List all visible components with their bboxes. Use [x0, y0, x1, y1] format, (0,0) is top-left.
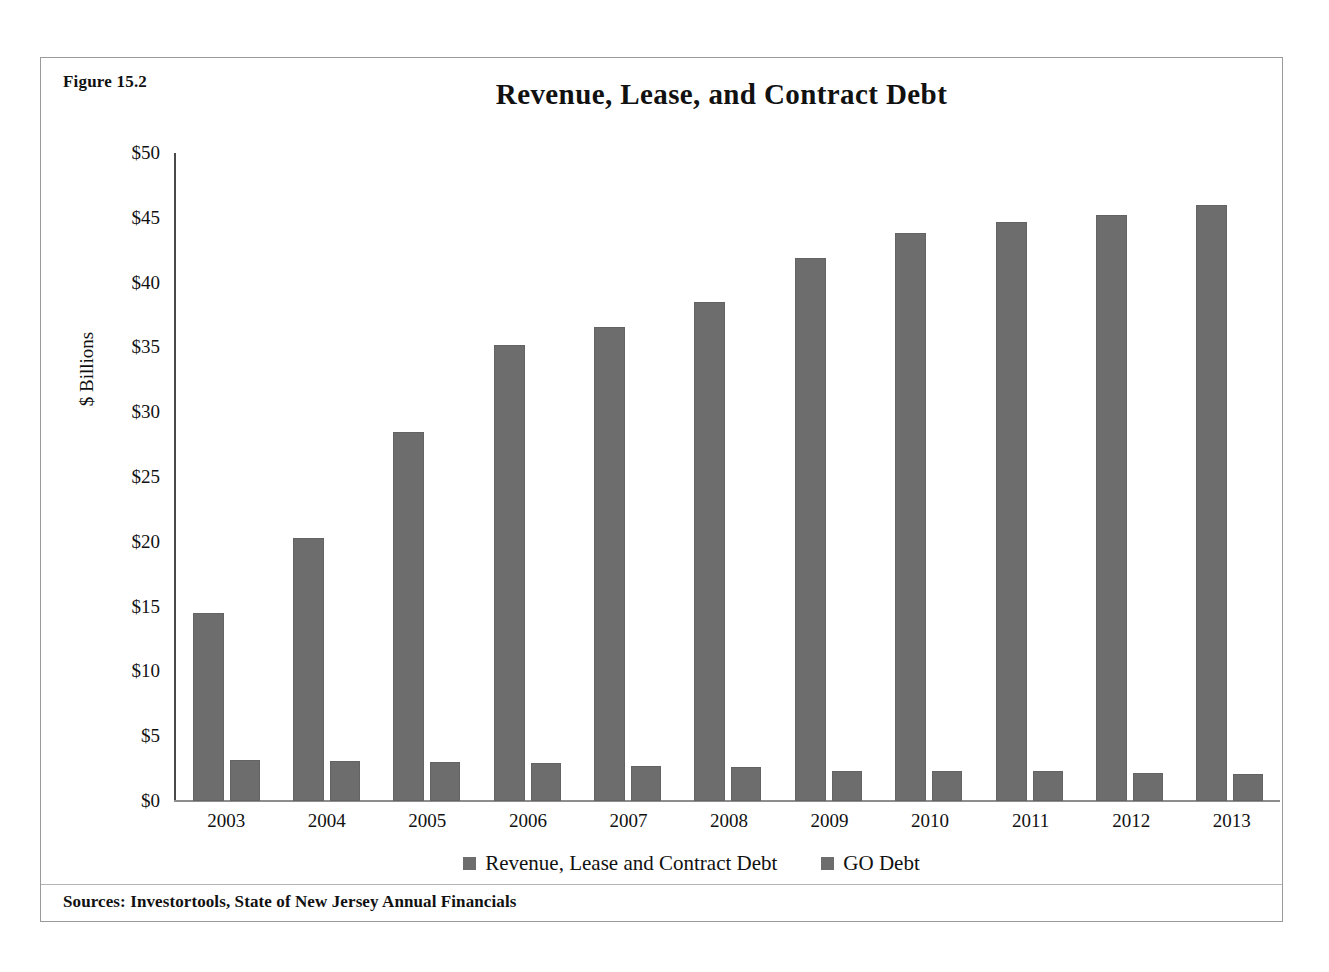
legend-label: Revenue, Lease and Contract Debt [485, 851, 777, 876]
source-divider [41, 884, 1282, 885]
legend-label: GO Debt [843, 851, 919, 876]
bar-go-debt [631, 766, 661, 801]
bar-revenue-lease-contract-debt [393, 432, 424, 801]
bar-revenue-lease-contract-debt [795, 258, 826, 801]
x-axis-tick: 2003 [176, 810, 277, 832]
bar-go-debt [832, 771, 862, 801]
bars-layer [176, 153, 1280, 801]
bar-go-debt [330, 761, 360, 801]
y-axis-tick: $35 [70, 336, 160, 358]
x-axis-tick-labels: 2003200420052006200720082009201020112012… [176, 810, 1282, 832]
x-axis-tick: 2011 [980, 810, 1081, 832]
bar-go-debt [430, 762, 460, 801]
x-axis-tick: 2005 [377, 810, 478, 832]
y-axis-tick: $5 [70, 725, 160, 747]
legend-item: Revenue, Lease and Contract Debt [463, 851, 777, 876]
bar-revenue-lease-contract-debt [694, 302, 725, 801]
y-axis-tick: $25 [70, 466, 160, 488]
x-axis-tick: 2004 [277, 810, 378, 832]
x-axis-tick: 2010 [880, 810, 981, 832]
bar-go-debt [1033, 771, 1063, 801]
bar-go-debt [1133, 773, 1163, 802]
y-axis-tick: $50 [70, 142, 160, 164]
x-axis-tick: 2009 [779, 810, 880, 832]
x-axis-tick: 2012 [1081, 810, 1182, 832]
bar-revenue-lease-contract-debt [293, 538, 324, 801]
source-note: Sources: Investortools, State of New Jer… [63, 892, 516, 912]
bar-revenue-lease-contract-debt [594, 327, 625, 801]
y-axis-tick: $20 [70, 531, 160, 553]
bar-group [678, 153, 778, 801]
bar-revenue-lease-contract-debt [895, 233, 926, 801]
y-axis-tick: $40 [70, 272, 160, 294]
legend-swatch-icon [821, 857, 834, 870]
bar-group [477, 153, 577, 801]
bar-group [577, 153, 677, 801]
y-axis-tick: $10 [70, 660, 160, 682]
bar-group [778, 153, 878, 801]
bar-revenue-lease-contract-debt [1096, 215, 1127, 801]
y-axis-tick: $0 [70, 790, 160, 812]
bar-group [879, 153, 979, 801]
bar-group [176, 153, 276, 801]
bar-go-debt [932, 771, 962, 801]
plot-area: $50$45$40$35$30$25$20$15$10$5$0 [174, 153, 1280, 801]
bar-go-debt [531, 763, 561, 801]
bar-go-debt [1233, 774, 1263, 801]
bar-group [979, 153, 1079, 801]
y-axis-tick: $30 [70, 401, 160, 423]
bar-revenue-lease-contract-debt [193, 613, 224, 801]
chart-title: Revenue, Lease, and Contract Debt [41, 78, 1282, 111]
bar-revenue-lease-contract-debt [1196, 205, 1227, 801]
bar-revenue-lease-contract-debt [996, 222, 1027, 801]
bar-go-debt [230, 760, 260, 801]
bar-group [1180, 153, 1280, 801]
chart-legend: Revenue, Lease and Contract DebtGO Debt [41, 851, 1282, 876]
bar-go-debt [731, 767, 761, 801]
x-axis-tick: 2006 [478, 810, 579, 832]
legend-swatch-icon [463, 857, 476, 870]
x-axis-tick: 2013 [1181, 810, 1282, 832]
y-axis-tick: $15 [70, 596, 160, 618]
bar-group [276, 153, 376, 801]
bar-revenue-lease-contract-debt [494, 345, 525, 801]
figure-frame: Figure 15.2 Revenue, Lease, and Contract… [40, 57, 1283, 922]
legend-item: GO Debt [821, 851, 919, 876]
x-axis-tick: 2007 [578, 810, 679, 832]
y-axis-tick: $45 [70, 207, 160, 229]
x-axis-tick: 2008 [679, 810, 780, 832]
bar-group [377, 153, 477, 801]
bar-group [1079, 153, 1179, 801]
